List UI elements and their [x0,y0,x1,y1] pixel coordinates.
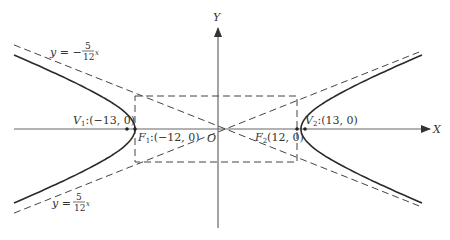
f1-label: F1:(−12, 0) [137,131,200,145]
svg-text:12: 12 [83,52,94,62]
svg-text:x: x [86,200,90,208]
svg-text:x: x [95,49,99,57]
svg-text:12: 12 [74,203,85,213]
svg-text:5: 5 [76,192,82,202]
y-axis-label: Y [213,11,222,24]
point-f1-dot [133,127,137,131]
v1-label: V1:(−13, 0) [73,114,135,128]
svg-text:5: 5 [85,41,91,51]
asymptote-lower-equation: y = 5 12 x [51,192,90,213]
point-v2-dot [303,127,307,131]
asymptote-lower [14,52,420,213]
x-axis-label: X [432,123,442,136]
f2-label: F2(12, 0) [254,131,304,145]
point-v1-dot [125,127,129,131]
hyperbola-diagram: X Y O V1:(−13, 0) V2:(13, 0) F1:(−12, 0)… [0,0,450,240]
asymptote-upper-equation: y = − 5 12 x [49,41,99,62]
v2-label: V2:(13, 0) [305,114,358,128]
origin-label: O [207,132,216,145]
svg-text:y =: y = [51,197,71,210]
svg-text:y = −: y = − [49,46,82,59]
